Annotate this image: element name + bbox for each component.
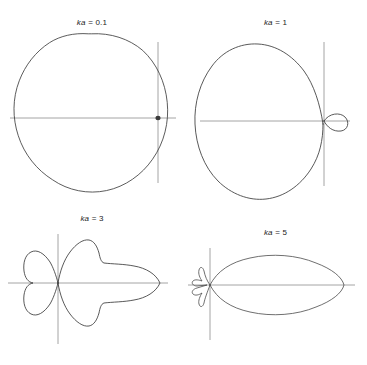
directivity-curve-forward-lobe — [324, 114, 348, 131]
directivity-curve — [14, 34, 168, 192]
polar-plot-ka-1 — [184, 0, 367, 183]
directivity-curve-back-lobes — [192, 267, 210, 306]
panel-ka-3: ka = 3 — [0, 183, 184, 365]
panel-ka-0-1: ka = 0.1 — [0, 0, 184, 183]
panel-label-value: 1 — [282, 18, 287, 27]
polar-plot-ka-3 — [0, 183, 184, 365]
panel-label-symbol: ka — [264, 228, 273, 237]
panel-ka-1: ka = 1 — [184, 0, 367, 183]
panel-label-symbol: ka — [264, 18, 273, 27]
panel-label-ka-3: ka = 3 — [0, 214, 184, 223]
polar-plot-ka-0-1 — [0, 0, 184, 183]
panel-label-ka-1: ka = 1 — [184, 18, 367, 27]
panel-label-symbol: ka — [77, 18, 86, 27]
panel-label-sep: = — [89, 214, 99, 223]
directivity-curve-main — [195, 44, 323, 199]
polar-plot-ka-5 — [184, 183, 367, 365]
panel-label-ka-0-1: ka = 0.1 — [0, 18, 184, 27]
panel-label-ka-5: ka = 5 — [184, 228, 367, 237]
panel-label-symbol: ka — [80, 214, 89, 223]
panel-ka-5: ka = 5 — [184, 183, 367, 365]
panel-label-value: 0.1 — [95, 18, 107, 27]
panel-label-sep: = — [86, 18, 96, 27]
panel-label-sep: = — [273, 18, 283, 27]
panel-label-sep: = — [273, 228, 283, 237]
panel-label-value: 5 — [282, 228, 287, 237]
origin-marker — [155, 116, 160, 120]
panel-label-value: 3 — [99, 214, 104, 223]
directivity-figure: ka = 0.1 ka = 1 ka = 3 — [0, 0, 367, 365]
